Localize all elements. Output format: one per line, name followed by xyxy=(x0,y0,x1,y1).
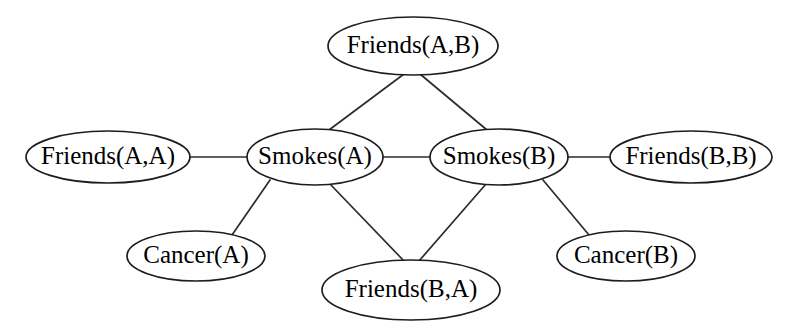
graph-node-friends_aa[interactable]: Friends(A,A) xyxy=(26,131,190,183)
graph-canvas: Friends(A,B)Friends(A,A)Smokes(A)Smokes(… xyxy=(0,0,793,329)
graph-node-cancer_a[interactable]: Cancer(A) xyxy=(127,231,265,281)
node-label-smokes_a: Smokes(A) xyxy=(258,142,372,170)
graph-node-smokes_b[interactable]: Smokes(B) xyxy=(430,129,568,185)
graph-edge-smokes_a-friends_ba xyxy=(330,184,404,261)
node-label-friends_aa: Friends(A,A) xyxy=(41,142,175,170)
graph-edge-smokes_a-cancer_a xyxy=(232,180,270,235)
node-label-smokes_b: Smokes(B) xyxy=(443,142,556,170)
graph-node-friends_ab[interactable]: Friends(A,B) xyxy=(328,17,498,75)
graph-node-smokes_a[interactable]: Smokes(A) xyxy=(247,129,383,185)
graph-node-friends_bb[interactable]: Friends(B,B) xyxy=(610,131,772,183)
graph-edge-friends_ab-smokes_b xyxy=(420,74,487,130)
node-label-friends_ab: Friends(A,B) xyxy=(347,31,480,59)
node-layer: Friends(A,B)Friends(A,A)Smokes(A)Smokes(… xyxy=(26,17,772,320)
graph-node-cancer_b[interactable]: Cancer(B) xyxy=(557,231,695,281)
node-label-cancer_b: Cancer(B) xyxy=(574,241,678,269)
graph-edge-smokes_b-cancer_b xyxy=(543,180,589,235)
graph-edge-smokes_b-friends_ba xyxy=(419,184,486,261)
graph-node-friends_ba[interactable]: Friends(B,A) xyxy=(322,260,500,320)
node-label-friends_ba: Friends(B,A) xyxy=(345,275,478,303)
node-label-friends_bb: Friends(B,B) xyxy=(625,142,756,170)
node-label-cancer_a: Cancer(A) xyxy=(143,241,249,269)
graph-edge-friends_ab-smokes_a xyxy=(329,74,404,130)
